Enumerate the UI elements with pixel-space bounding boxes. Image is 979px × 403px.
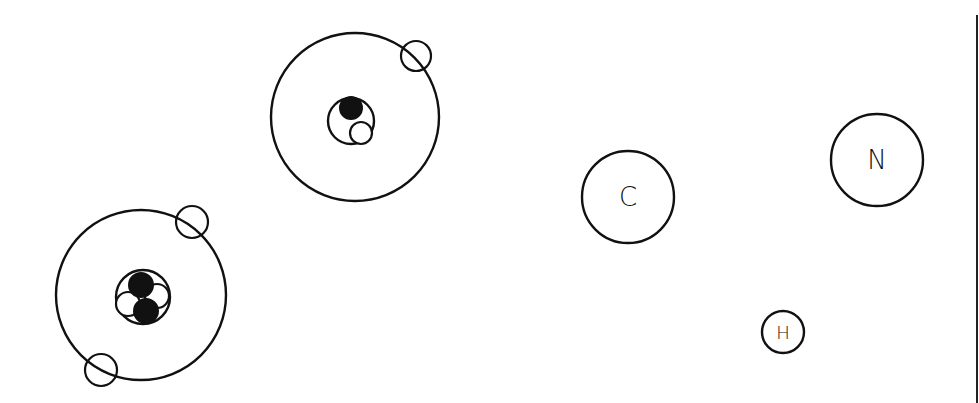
element-symbol: H: [776, 322, 790, 343]
electron: [176, 206, 208, 238]
proton: [129, 273, 153, 297]
atom-diagram: CNH: [0, 0, 979, 403]
electron: [401, 41, 431, 71]
neutron: [350, 122, 372, 144]
element-symbol: C: [619, 182, 637, 212]
element-h: H: [762, 311, 804, 353]
proton: [340, 97, 362, 119]
element-n: N: [831, 114, 923, 206]
atoms-layer: [56, 33, 439, 386]
element-symbols-layer: CNH: [582, 114, 923, 353]
helium-atom: [56, 206, 226, 386]
proton: [134, 299, 158, 323]
element-symbol: N: [867, 145, 886, 175]
element-c: C: [582, 151, 674, 243]
deuterium-atom: [271, 33, 439, 201]
